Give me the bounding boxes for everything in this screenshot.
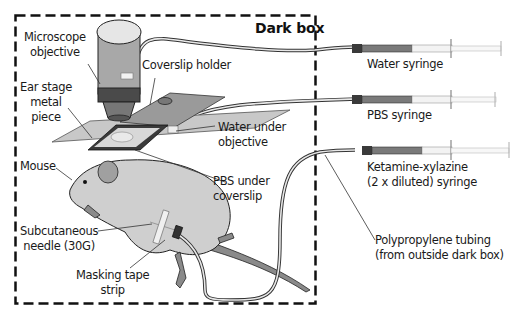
label-water-under-objective: Water under objective (218, 120, 286, 150)
label-pbs-syringe: PBS syringe (367, 108, 432, 123)
label-mouse: Mouse (20, 159, 56, 174)
water-syringe (352, 39, 501, 58)
label-tubing: Polypropylene tubing (from outside dark … (375, 233, 504, 263)
ketamine-syringe (362, 140, 509, 160)
label-ear-stage: Ear stage metal piece (20, 80, 72, 125)
pbs-syringe (352, 90, 496, 109)
label-coverslip-holder: Coverslip holder (142, 58, 231, 73)
label-ketamine-syringe: Ketamine-xylazine (2 x diluted) syringe (367, 160, 477, 190)
label-pbs-under-coverslip: PBS under coverslip (213, 174, 270, 204)
label-masking-tape: Masking tape strip (76, 268, 149, 298)
microscope-objective (97, 20, 141, 121)
label-microscope-objective: Microscope objective (24, 30, 86, 60)
label-subcutaneous-needle: Subcutaneous needle (30G) (20, 224, 98, 254)
label-water-syringe: Water syringe (367, 57, 443, 72)
dark-box-title: Dark box (255, 20, 324, 36)
